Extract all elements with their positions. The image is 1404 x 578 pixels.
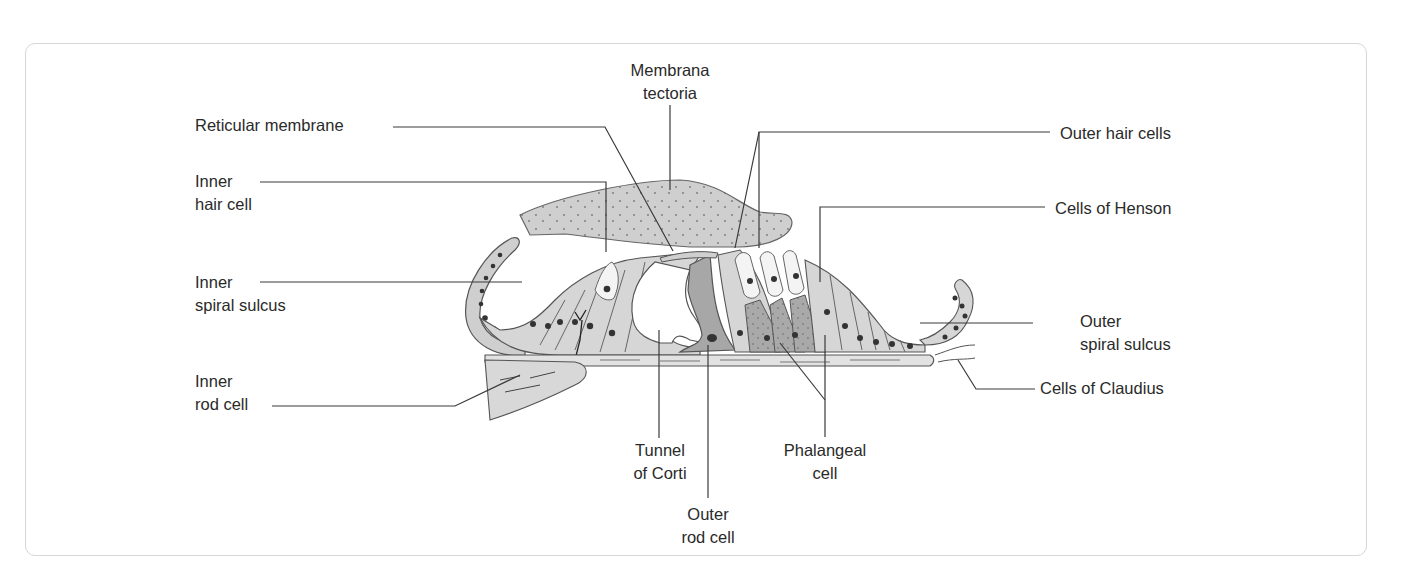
label-line: spiral sulcus	[195, 294, 286, 317]
label-line: Inner	[195, 170, 252, 193]
label-line: Tunnel	[620, 439, 700, 462]
label-membrana-tectoria: Membrana tectoria	[625, 59, 715, 105]
label-line: Outer	[670, 503, 746, 526]
label-outer-hair-cells: Outer hair cells	[1060, 122, 1171, 145]
cells-of-henson-shape	[805, 260, 925, 352]
label-line: Cells of Henson	[1055, 197, 1171, 220]
label-line: of Corti	[620, 462, 700, 485]
label-line: tectoria	[625, 82, 715, 105]
label-cells-of-henson: Cells of Henson	[1055, 197, 1171, 220]
label-line: Inner	[195, 271, 286, 294]
label-inner-spiral-sulcus: Inner spiral sulcus	[195, 271, 286, 317]
label-outer-rod-cell: Outer rod cell	[670, 503, 746, 549]
membrana-tectoria-shape	[520, 180, 792, 247]
label-line: rod cell	[195, 393, 248, 416]
label-line: Phalangeal	[775, 439, 875, 462]
label-tunnel-of-corti: Tunnel of Corti	[620, 439, 700, 485]
label-phalangeal-cell: Phalangeal cell	[775, 439, 875, 485]
label-cells-of-claudius: Cells of Claudius	[1040, 377, 1164, 400]
label-line: Outer hair cells	[1060, 122, 1171, 145]
label-reticular-membrane: Reticular membrane	[195, 114, 344, 137]
inner-rod-cell-shape	[485, 360, 586, 420]
label-line: rod cell	[670, 526, 746, 549]
label-line: Inner	[195, 370, 248, 393]
label-inner-rod-cell: Inner rod cell	[195, 370, 248, 416]
label-line: cell	[775, 462, 875, 485]
label-line: Cells of Claudius	[1040, 377, 1164, 400]
cells-of-claudius-shape	[920, 280, 975, 362]
label-inner-hair-cell: Inner hair cell	[195, 170, 252, 216]
label-line: Reticular membrane	[195, 114, 344, 137]
label-line: hair cell	[195, 193, 252, 216]
label-line: Membrana	[625, 59, 715, 82]
